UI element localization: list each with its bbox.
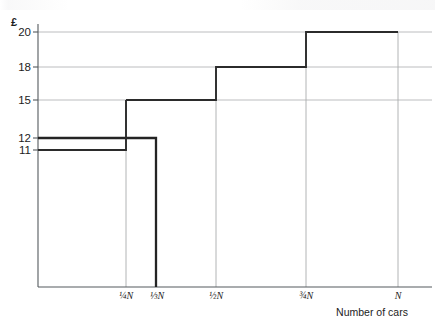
series-lower-step-12 [38,138,156,287]
x-tick-label-three-quarter-n: ¾N [299,290,315,301]
series-lower-step-11 [38,100,126,150]
y-tick-label-15: 15 [18,94,31,106]
series-main-staircase [126,32,398,100]
x-tick-label-third-n: ⅓N [150,290,166,301]
scan-artifact-top-edge [0,0,435,10]
y-tick-label-12: 12 [18,132,31,144]
x-axis-tick-labels: ¼N ⅓N ½N ¾N N [119,290,403,301]
horizontal-gridlines [38,32,432,100]
y-tick-label-20: 20 [18,26,31,38]
chart-canvas: 20 18 15 12 11 £ ¼N ⅓N ½N ¾N N Number of… [0,0,435,328]
x-tick-label-half-n: ½N [209,290,225,301]
step-chart-figure: 20 18 15 12 11 £ ¼N ⅓N ½N ¾N N Number of… [0,0,435,328]
vertical-gridlines [126,32,398,287]
y-tick-marks [33,32,38,150]
x-tick-label-n: N [394,290,403,301]
x-axis-title: Number of cars [336,306,408,318]
y-axis-tick-labels: 20 18 15 12 11 [18,26,31,156]
x-tick-label-quarter-n: ¼N [119,290,135,301]
y-axis-unit-label: £ [11,16,17,28]
axes [38,24,432,287]
y-tick-label-18: 18 [18,61,31,73]
y-tick-label-11: 11 [19,144,31,156]
